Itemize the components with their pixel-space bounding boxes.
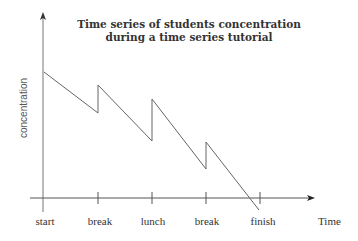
chart-title-line-1: Time series of students concentration (10, 18, 358, 31)
chart-title-line-2: during a time series tutorial (10, 31, 358, 44)
y-axis-label: concentration (18, 78, 29, 138)
x-tick-label-lunch: lunch (141, 215, 165, 227)
concentration-series-line (44, 72, 259, 210)
x-tick-label-break-1: break (88, 215, 112, 227)
x-tick-label-start: start (36, 215, 55, 227)
x-tick-label-break-2: break (195, 215, 219, 227)
x-axis-label: Time (318, 215, 341, 227)
x-tick-label-finish: finish (250, 215, 275, 227)
